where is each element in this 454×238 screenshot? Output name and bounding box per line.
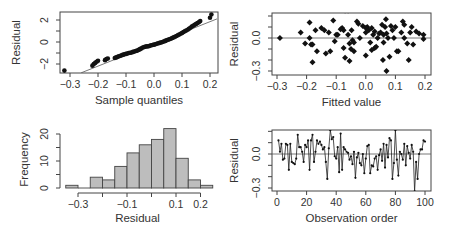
data-point	[384, 167, 386, 169]
data-point	[421, 36, 427, 42]
y-tick-label: 2	[38, 17, 50, 23]
y-tick-label: −2	[38, 58, 50, 70]
y-axis-title: Residual	[10, 20, 22, 65]
data-point	[337, 146, 339, 148]
data-point	[303, 161, 305, 163]
histogram-bar	[127, 153, 139, 188]
x-tick-label: 0.2	[203, 78, 218, 90]
data-point	[329, 129, 331, 131]
x-tick-label: 0.1	[388, 80, 403, 92]
x-tick-label: −0.1	[117, 198, 138, 210]
data-point	[398, 30, 404, 36]
data-point	[349, 27, 355, 33]
histogram-bar	[90, 177, 102, 188]
histogram-bar	[115, 166, 127, 188]
data-point	[342, 55, 348, 61]
data-point	[381, 160, 383, 162]
x-tick-label: −0.3	[68, 198, 89, 210]
histogram-bar	[66, 185, 78, 188]
data-point	[418, 153, 420, 155]
plot-area	[272, 8, 431, 75]
data-point	[198, 19, 203, 24]
data-point	[374, 157, 376, 159]
data-point	[330, 17, 336, 23]
x-tick-label: −0.2	[88, 78, 109, 90]
histogram-bar	[201, 185, 213, 188]
data-point	[310, 139, 312, 141]
x-tick-label: 100	[416, 196, 434, 208]
data-point	[385, 144, 387, 146]
data-point	[332, 136, 334, 138]
data-point	[338, 171, 340, 173]
data-point	[326, 178, 328, 180]
data-point	[362, 153, 364, 155]
data-point	[310, 59, 316, 65]
x-axis-title: Residual	[115, 212, 160, 224]
data-point	[353, 151, 355, 153]
data-point	[345, 32, 351, 38]
data-point	[409, 24, 415, 30]
data-point	[367, 39, 373, 45]
data-point	[294, 163, 296, 165]
x-tick-label: 0.1	[169, 198, 184, 210]
data-point	[393, 162, 395, 164]
data-point	[394, 129, 396, 131]
data-point	[300, 146, 302, 148]
y-axis-title: Residual	[228, 138, 240, 183]
data-point	[372, 165, 374, 167]
y-tick-label: 10	[38, 155, 50, 167]
data-point	[314, 151, 316, 153]
data-point	[343, 146, 345, 148]
data-point	[307, 139, 309, 141]
data-point	[397, 174, 399, 176]
y-tick-label: 0	[38, 185, 50, 191]
panel-normal-probability-plot: −0.3−0.2−0.10.00.10.2−202Sample quantile…	[10, 12, 218, 106]
data-point	[391, 178, 393, 180]
data-point	[391, 35, 397, 41]
histogram-bar	[164, 129, 176, 188]
data-point	[347, 58, 353, 64]
data-point	[378, 154, 380, 156]
data-point	[283, 157, 285, 159]
data-point	[417, 178, 419, 180]
data-point	[307, 35, 313, 41]
data-point	[399, 151, 401, 153]
data-point	[332, 38, 338, 44]
x-tick-label: −0.3	[267, 80, 288, 92]
x-tick-label: 0.0	[358, 80, 373, 92]
data-point	[62, 68, 67, 73]
data-point	[357, 35, 363, 41]
y-tick-label: 0.0	[250, 31, 262, 46]
data-point	[328, 147, 330, 149]
data-point	[424, 140, 426, 142]
data-point	[406, 57, 412, 63]
x-axis-title: Sample quantiles	[95, 94, 183, 106]
data-point	[313, 161, 315, 163]
x-tick-label: 0.2	[193, 198, 208, 210]
data-point	[404, 41, 410, 47]
data-point	[277, 139, 279, 141]
data-point	[277, 35, 283, 41]
data-point	[402, 159, 404, 161]
data-point	[325, 161, 327, 163]
histogram-bar	[188, 180, 200, 188]
data-point	[382, 143, 384, 145]
y-tick-label: 0	[38, 39, 50, 45]
histogram-bar	[103, 180, 115, 188]
data-point	[298, 30, 304, 36]
series-line	[279, 130, 426, 191]
y-tick-label: −0.3	[250, 60, 262, 81]
data-point	[317, 143, 319, 145]
plot-area	[62, 12, 217, 73]
histogram-bar	[176, 158, 188, 188]
data-point	[322, 148, 324, 150]
data-point	[354, 177, 356, 179]
histogram-bar	[152, 139, 164, 188]
data-point	[307, 20, 313, 26]
data-point	[341, 169, 343, 171]
data-point	[381, 39, 387, 45]
x-tick-label: 60	[360, 196, 372, 208]
data-point	[301, 151, 303, 153]
x-tick-label: −0.3	[60, 78, 81, 90]
data-point	[360, 164, 362, 166]
